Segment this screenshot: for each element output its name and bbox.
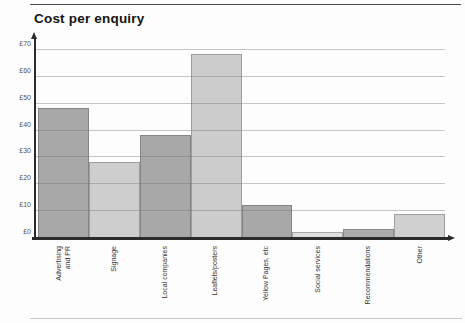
- y-tick-label-40: £40: [0, 120, 31, 129]
- x-axis-arrow-icon: [448, 235, 455, 241]
- gridline-50: [35, 103, 445, 104]
- y-tick-label-60: £60: [0, 66, 31, 75]
- y-axis-arrow-icon: [31, 32, 37, 39]
- x-label-leaflets-posters: Leaflets/posters: [212, 246, 221, 295]
- scanned-figure: Cost per enquiry £0£10£20£30£40£50£60£70…: [0, 0, 465, 323]
- x-label-yellow-pages-etc: Yellow Pages, etc: [262, 246, 271, 301]
- bar-local-companies: [140, 135, 191, 237]
- gridline-30: [35, 156, 445, 157]
- gridline-40: [35, 130, 445, 131]
- bar-signage: [89, 162, 140, 237]
- x-label-other: Other: [415, 246, 424, 264]
- x-label-signage: Signage: [110, 246, 119, 272]
- gridline-10: [35, 210, 445, 211]
- y-axis-line: [34, 38, 36, 239]
- gridline-20: [35, 183, 445, 184]
- bar-chart: £0£10£20£30£40£50£60£70Advertising and P…: [0, 0, 465, 323]
- x-label-local-companies: Local companies: [161, 246, 170, 299]
- y-tick-label-0: £0: [0, 227, 31, 236]
- bar-other: [394, 214, 445, 237]
- y-tick-label-70: £70: [0, 39, 31, 48]
- y-tick-label-30: £30: [0, 146, 31, 155]
- x-label-advertising-and-pr: Advertising and PR: [55, 246, 72, 281]
- gridline-70: [35, 49, 445, 50]
- gridline-60: [35, 76, 445, 77]
- bar-advertising-and-pr: [38, 108, 89, 237]
- y-tick-label-10: £10: [0, 200, 31, 209]
- x-axis-line: [32, 237, 448, 240]
- y-tick-label-20: £20: [0, 173, 31, 182]
- y-tick-label-50: £50: [0, 93, 31, 102]
- bottom-rule-divider: [30, 318, 462, 319]
- x-label-social-services: Social services: [313, 246, 322, 293]
- bar-recommendations: [343, 229, 394, 237]
- x-label-recommendations: Recommendations: [364, 246, 373, 304]
